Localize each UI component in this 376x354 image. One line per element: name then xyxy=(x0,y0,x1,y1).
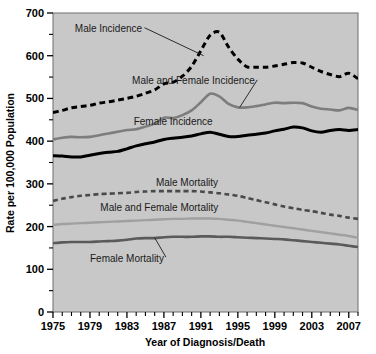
y-tick-label: 300 xyxy=(26,178,44,190)
x-axis-tick-labels: 197519791983198719911995199920032007 xyxy=(41,320,361,332)
x-tick-label: 1987 xyxy=(152,320,176,332)
x-axis-title: Year of Diagnosis/Death xyxy=(145,336,265,348)
y-axis-ticks xyxy=(47,13,53,312)
y-axis-title: Rate per 100,000 Population xyxy=(4,93,16,233)
y-axis-tick-labels: 7006005004003002001000 xyxy=(26,7,44,318)
series-label-male-incidence: Male Incidence xyxy=(75,23,143,34)
y-tick-label: 100 xyxy=(26,263,44,275)
x-axis-ticks xyxy=(53,312,358,318)
plot-background xyxy=(53,13,358,312)
y-tick-label: 600 xyxy=(26,50,44,62)
series-label-male-mortality: Male Mortality xyxy=(156,177,218,188)
y-tick-label: 400 xyxy=(26,135,44,147)
y-tick-label: 200 xyxy=(26,221,44,233)
line-chart: 7006005004003002001000 19751979198319871… xyxy=(0,0,376,354)
series-label-male-and-female-incidence: Male and Female Incidence xyxy=(132,75,255,86)
x-tick-label: 1979 xyxy=(78,320,102,332)
series-label-male-and-female-mortality: Male and Female Mortality xyxy=(100,202,218,213)
x-tick-label: 2003 xyxy=(300,320,324,332)
x-tick-label: 1975 xyxy=(41,320,65,332)
x-tick-label: 1983 xyxy=(115,320,139,332)
series-label-female-mortality: Female Mortality xyxy=(90,253,164,264)
chart-container: 7006005004003002001000 19751979198319871… xyxy=(0,0,376,354)
y-tick-label: 500 xyxy=(26,92,44,104)
y-tick-label: 700 xyxy=(26,7,44,19)
x-tick-label: 1991 xyxy=(189,320,213,332)
y-tick-label: 0 xyxy=(38,306,44,318)
x-tick-label: 1999 xyxy=(263,320,287,332)
series-label-female-incidence: Female Incidence xyxy=(134,116,213,127)
x-tick-label: 1995 xyxy=(226,320,250,332)
x-tick-label: 2007 xyxy=(337,320,361,332)
